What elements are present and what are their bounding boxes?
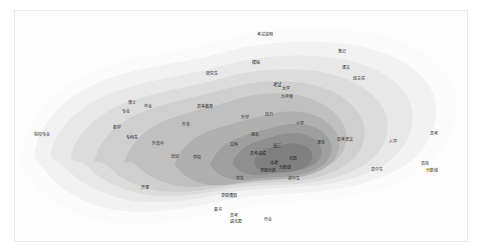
contour-plot-panel: 院校专业考试说明笔记课文班主任研究生模拟博士专业毕业数学高等教育专科生升高中升本…	[14, 10, 468, 242]
figure-root: 院校专业考试说明笔记课文班主任研究生模拟博士专业毕业数学高等教育专科生升高中升本…	[0, 0, 482, 252]
contour-density-map	[15, 11, 468, 242]
